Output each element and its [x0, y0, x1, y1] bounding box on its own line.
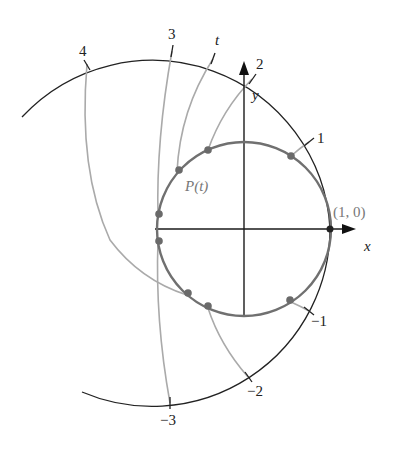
p-t-label: P(t): [184, 178, 208, 195]
arc-ticks: [84, 45, 314, 409]
wrap-curves: [85, 51, 309, 403]
point-t2: [204, 146, 212, 154]
y-axis-arrow-icon: [239, 61, 249, 75]
x-axis-label: x: [363, 238, 371, 254]
tick-label-neg1: −1: [311, 313, 327, 329]
tick-label-3: 3: [168, 26, 176, 42]
point-1-0-label: (1, 0): [333, 204, 366, 221]
tick-label-4: 4: [79, 43, 87, 59]
tick-label-2: 2: [256, 56, 264, 72]
tick-label-neg3: −3: [160, 412, 176, 428]
x-axis-arrow-icon: [342, 224, 356, 234]
point-tneg1: [286, 296, 294, 304]
wrap-curve-2: [208, 79, 252, 150]
tick-label-1: 1: [317, 130, 325, 146]
tick-label-neg2: −2: [247, 383, 263, 399]
unit-circle-diagram: 4 3 t 2 1 −1 −2 −3 y x (1, 0) P(t): [0, 0, 396, 454]
point-t3: [155, 210, 163, 218]
point-tneg2: [204, 302, 212, 310]
point-P-t: [175, 166, 183, 174]
y-axis-label: y: [250, 87, 259, 103]
outer-number-line-arc: [22, 60, 330, 406]
point-1-0: [327, 226, 334, 233]
axes: [155, 70, 348, 315]
wrap-curve-t: [177, 59, 213, 172]
wrap-curve-neg2: [208, 308, 248, 377]
point-t4: [184, 289, 192, 297]
point-tneg3: [155, 237, 163, 245]
point-t1: [287, 152, 295, 160]
tick-label-t: t: [215, 32, 220, 48]
